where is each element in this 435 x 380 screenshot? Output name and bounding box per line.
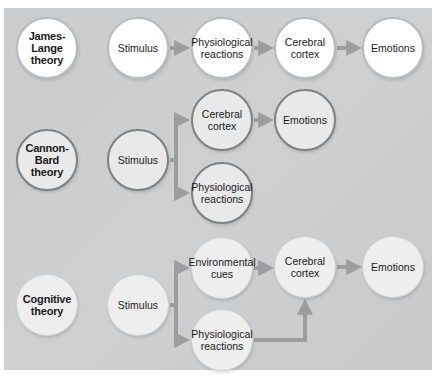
node-label: Cerebral cortex [193,108,251,132]
node-label: Stimulus [116,154,160,166]
cognitive-theory-label: Cognitive theory [16,274,78,336]
node-label: Cerebral cortex [275,255,335,279]
cannon-bard-theory-label: Cannon-Bard theory [16,129,78,191]
jl-stimulus-node: Stimulus [107,17,169,79]
arrow-cg-physio-cortex [254,306,305,340]
node-label: Stimulus [116,42,160,54]
cg-environmental-node: Environmental cues [191,237,253,299]
node-label: Emotions [369,261,417,273]
cg-emotions-node: Emotions [362,236,424,298]
node-label: Emotions [369,42,417,54]
cg-stimulus-node: Stimulus [107,274,169,336]
cg-cortex-node: Cerebral cortex [274,236,336,298]
arrow-cg-branch-bottom [176,305,183,340]
jl-physiological-node: Physiological reactions [191,17,253,79]
cb-stimulus-node: Stimulus [107,129,169,191]
node-label: Emotions [281,114,329,126]
cb-cortex-node: Cerebral cortex [191,89,253,151]
node-label: Physiological reactions [189,328,254,352]
theory-name: James-Lange theory [18,30,76,66]
cb-emotions-node: Emotions [274,89,336,151]
james-lange-theory-label: James-Lange theory [16,17,78,79]
node-label: Physiological reactions [189,181,254,205]
arrow-cg-branch-top [170,268,183,305]
cb-physiological-node: Physiological reactions [191,162,253,224]
node-label: Cerebral cortex [276,36,334,60]
theory-name: Cognitive theory [17,293,77,317]
node-label: Physiological reactions [189,36,254,60]
arrow-cb-branch-bottom [176,160,183,193]
jl-cortex-node: Cerebral cortex [274,17,336,79]
node-label: Environmental cues [186,256,257,280]
theory-name: Cannon-Bard theory [18,142,76,178]
jl-emotions-node: Emotions [362,17,424,79]
node-label: Stimulus [116,299,160,311]
cg-physiological-node: Physiological reactions [191,309,253,371]
arrow-cb-branch-top [170,120,183,160]
